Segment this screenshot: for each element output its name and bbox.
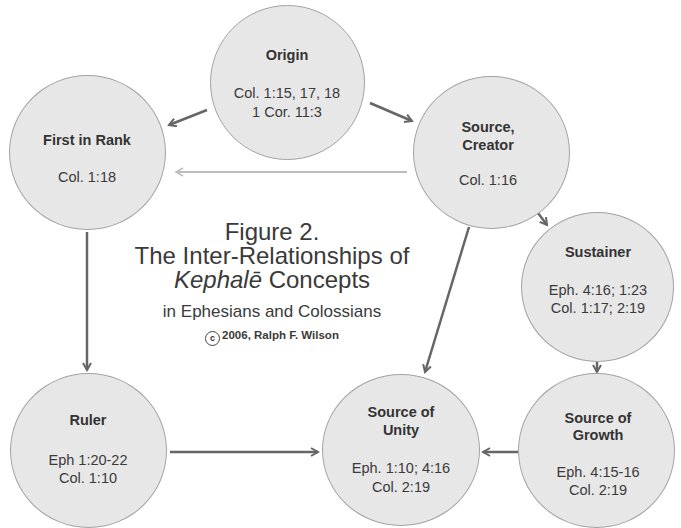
node-origin-ref: Col. 1:15, 17, 18 <box>177 85 397 101</box>
node-origin <box>210 5 365 160</box>
node-ruler-title: Ruler <box>0 412 198 428</box>
node-first-in-rank <box>9 75 166 230</box>
node-source-of-unity-ref: Eph. 1:10; 4:16 <box>291 460 511 476</box>
node-source-creator-title: Creator <box>378 137 598 153</box>
figure-copyright: c2006, Ralph F. Wilson <box>72 327 472 346</box>
figure-title-italic: Kephalē <box>174 266 262 293</box>
figure-title-line2: Kephalē Concepts <box>72 267 472 293</box>
node-source-of-growth-title: Growth <box>488 427 681 443</box>
node-ruler <box>10 373 167 528</box>
node-source-of-growth-title: Source of <box>488 410 681 426</box>
node-source-of-unity <box>322 374 480 526</box>
node-source-of-unity-title: Source of <box>291 404 511 420</box>
node-ruler-ref: Col. 1:10 <box>0 470 198 486</box>
node-source-of-growth <box>518 373 675 528</box>
node-sustainer-ref: Col. 1:17; 2:19 <box>488 300 681 316</box>
node-sustainer-title: Sustainer <box>488 244 681 260</box>
arrow-source-creator-to-sustainer <box>538 213 547 225</box>
node-source-of-unity-ref: Col. 2:19 <box>291 479 511 495</box>
node-first-in-rank-title: First in Rank <box>0 132 197 148</box>
figure-title-rest: Concepts <box>262 266 370 293</box>
copyright-icon: c <box>205 331 220 346</box>
node-source-of-growth-ref: Eph. 4:15-16 <box>488 464 681 480</box>
node-source-creator-title: Source, <box>378 119 598 135</box>
node-source-of-unity-title: Unity <box>291 422 511 438</box>
node-ruler-ref: Eph 1:20-22 <box>0 452 198 468</box>
node-sustainer-ref: Eph. 4:16; 1:23 <box>488 282 681 298</box>
node-source-of-growth-ref: Col. 2:19 <box>488 482 681 498</box>
node-origin-title: Origin <box>177 47 397 63</box>
node-source-creator-ref: Col. 1:16 <box>378 172 598 188</box>
node-origin-ref: 1 Cor. 11:3 <box>177 104 397 120</box>
figure-subtitle: in Ephesians and Colossians <box>72 302 472 322</box>
copyright-text: 2006, Ralph F. Wilson <box>222 329 339 341</box>
node-first-in-rank-ref: Col. 1:18 <box>0 169 197 185</box>
